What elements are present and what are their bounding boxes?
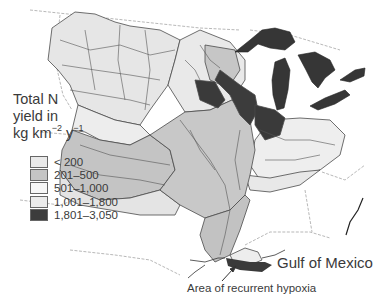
legend-item: 1,001–1,800 — [30, 195, 118, 208]
legend-item: < 200 — [30, 155, 118, 168]
hypoxia-label: Area of recurrent hypoxia — [187, 282, 316, 294]
legend-swatch — [30, 169, 48, 181]
legend-swatch — [30, 196, 48, 208]
lake-erie — [310, 90, 350, 110]
legend-item: 501–1,000 — [30, 182, 118, 195]
lake-ontario — [340, 68, 365, 82]
lake-huron — [298, 52, 335, 88]
legend-label: < 200 — [54, 156, 83, 168]
gulf-of-mexico-label: Gulf of Mexico — [277, 254, 373, 271]
legend-label: 201–500 — [54, 169, 99, 181]
hypoxia-arrow — [222, 266, 236, 281]
legend-item: 201–500 — [30, 168, 118, 181]
legend-label: 1,801–3,050 — [54, 209, 118, 221]
legend-swatch — [30, 209, 48, 221]
lake-superior — [235, 28, 295, 52]
legend: < 200 201–500 501–1,000 1,001–1,800 1,80… — [30, 155, 118, 222]
legend-label: 1,001–1,800 — [54, 196, 118, 208]
basin-subwatersheds — [48, 12, 345, 265]
legend-swatch — [30, 182, 48, 194]
lake-michigan — [272, 58, 290, 110]
legend-title-units: kg km−2 y−1 — [13, 125, 83, 142]
legend-label: 501–1,000 — [54, 182, 108, 194]
atlantic-coast — [346, 198, 363, 235]
legend-item: 1,801–3,050 — [30, 209, 118, 222]
legend-swatch — [30, 156, 48, 168]
legend-title: Total N yield in kg km−2 y−1 — [13, 91, 83, 142]
legend-title-line1: Total N — [13, 91, 83, 108]
